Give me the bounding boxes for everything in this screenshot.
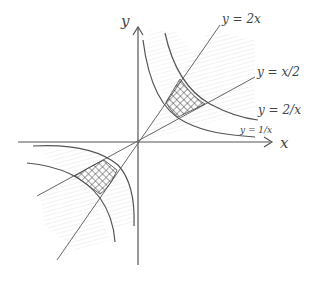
label-y-2-over-x: y = 2/x [258, 104, 301, 116]
diagram-canvas: y x y = 2x y = x/2 y = 2/x y = 1/x [0, 0, 313, 283]
shade-q1-wedge [138, 30, 255, 142]
y-axis-label: y [121, 14, 129, 29]
x-axis-label: x [280, 136, 288, 151]
y-axis [133, 27, 143, 265]
label-y-1-over-x: y = 1/x [240, 126, 272, 135]
line-y-half-x [37, 77, 255, 196]
label-y-2x: y = 2x [222, 13, 261, 25]
shade-q3-wedge [40, 150, 135, 250]
label-y-half-x: y = x/2 [257, 66, 300, 78]
